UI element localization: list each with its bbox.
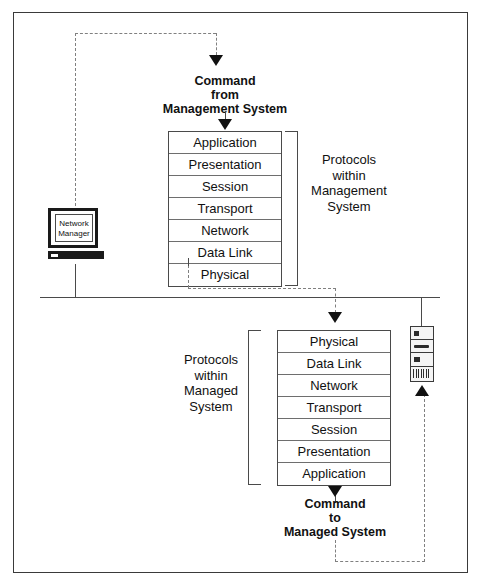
command-from-management-system-label: Command from Management System (125, 74, 325, 116)
command-into-upper-stack-arrowhead (218, 119, 232, 130)
management-system-stack: Application Presentation Session Transpo… (168, 131, 282, 287)
stack-layer: Physical (169, 264, 281, 286)
protocols-within-management-system-text: Protocols within Management System (311, 152, 387, 214)
monitor-bezel-icon: Network Manager (48, 208, 98, 248)
protocols-within-management-system-label: Protocols within Management System (290, 152, 408, 214)
protocols-within-managed-system-label: Protocols within Managed System (152, 352, 270, 414)
server-button (414, 357, 420, 362)
server-vent-grille (413, 369, 431, 378)
stack-layer: Physical (278, 331, 390, 353)
stack-layer: Network (169, 220, 281, 242)
stack-layer: Transport (278, 397, 390, 419)
return-path-right-vertical (424, 394, 425, 562)
network-manager-icon: Network Manager (48, 208, 104, 264)
stack-layer: Network (278, 375, 390, 397)
stack-layer: Data Link (169, 242, 281, 264)
return-path-down-from-command (335, 540, 336, 562)
diagram-canvas: Command from Management System Applicati… (0, 0, 481, 586)
managed-system-stack: Physical Data Link Network Transport Ses… (277, 330, 391, 486)
monitor-led-icon (51, 254, 58, 257)
transit-into-lower-stack-arrowhead (328, 312, 342, 323)
network-manager-bus-drop (75, 264, 76, 298)
feedback-path-left-vertical (75, 33, 76, 211)
return-path-bottom-horizontal (335, 561, 425, 562)
upper-stack-physical-drop (188, 258, 189, 266)
command-to-managed-system-label: Command to Managed System (235, 497, 435, 539)
server-drive-slot (414, 345, 429, 348)
command-from-path-vertical (216, 33, 217, 55)
server-tower-icon (410, 326, 434, 382)
transit-path-down-to-lower-stack (335, 288, 336, 313)
server-indicator-light (414, 331, 419, 336)
feedback-path-top-horizontal (75, 33, 216, 34)
command-from-arrowhead (209, 55, 223, 66)
stack-layer: Presentation (278, 441, 390, 463)
command-to-arrowhead (328, 486, 342, 497)
network-manager-label: Network Manager (55, 214, 93, 242)
stack-layer: Application (169, 132, 281, 154)
transit-path-horizontal (188, 288, 336, 289)
stack-layer: Presentation (169, 154, 281, 176)
return-into-managed-device-arrowhead (415, 385, 429, 396)
stack-layer: Session (278, 419, 390, 441)
stack-layer: Data Link (278, 353, 390, 375)
stack-layer: Session (169, 176, 281, 198)
stack-layer: Application (278, 463, 390, 485)
network-bus-line (40, 297, 440, 298)
protocols-within-managed-system-text: Protocols within Managed System (184, 352, 238, 414)
managed-device-bus-drop (421, 297, 422, 327)
transit-path-down-from-upper-stack (188, 265, 189, 288)
stack-layer: Transport (169, 198, 281, 220)
